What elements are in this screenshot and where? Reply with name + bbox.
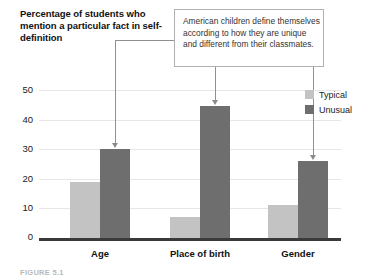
ytick-label-40: 40 — [0, 114, 33, 125]
ytick-label-50: 50 — [0, 84, 33, 95]
legend-swatch-typical-icon — [305, 90, 314, 99]
figure-caption: FIGURE 5.1 — [20, 268, 64, 277]
ytick-label-20: 20 — [0, 173, 33, 184]
bar-typical-gender — [268, 205, 298, 238]
category-label-age: Age — [70, 248, 130, 259]
annotation-arrow-2-head — [212, 100, 218, 105]
gridline-50 — [39, 90, 341, 91]
legend-item-typical: Typical — [305, 88, 352, 101]
legend: Typical Unusual — [305, 88, 352, 118]
gridline-30 — [39, 149, 341, 150]
ytick-label-0: 0 — [0, 231, 33, 242]
ytick-label-10: 10 — [0, 202, 33, 213]
category-label-gender: Gender — [268, 248, 328, 259]
chart-screenshot: Percentage of students who mention a par… — [0, 0, 379, 277]
legend-swatch-unusual-icon — [305, 105, 314, 114]
annotation-connector-2-vertical — [215, 67, 216, 100]
gridline-40 — [39, 120, 341, 121]
bar-typical-place-of-birth — [170, 217, 200, 238]
x-axis-line — [39, 238, 341, 241]
annotation-arrow-3-head — [310, 155, 316, 160]
legend-label-unusual: Unusual — [319, 105, 352, 115]
gridline-20 — [39, 179, 341, 180]
annotation-callout-text: American children define themselves acco… — [183, 16, 321, 51]
bar-unusual-gender — [298, 161, 328, 238]
ytick-label-30: 30 — [0, 143, 33, 154]
bar-unusual-age — [100, 149, 130, 238]
legend-item-unusual: Unusual — [305, 103, 352, 116]
bar-typical-age — [70, 182, 100, 238]
annotation-connector-1-horizontal — [115, 40, 174, 41]
annotation-callout-box: American children define themselves acco… — [174, 9, 324, 67]
annotation-arrow-1-head — [112, 143, 118, 148]
bar-unusual-place-of-birth — [200, 106, 230, 238]
category-label-place-of-birth: Place of birth — [160, 248, 240, 259]
annotation-connector-1-vertical — [115, 40, 116, 143]
legend-label-typical: Typical — [319, 90, 347, 100]
